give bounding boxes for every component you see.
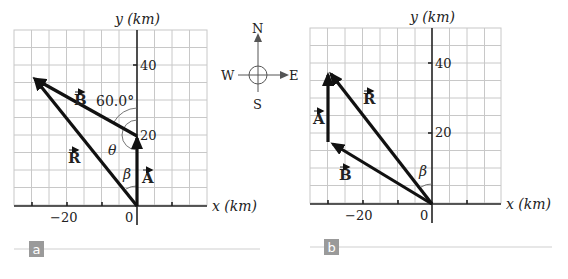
- panel-tag-b-label: b: [328, 240, 336, 255]
- grid: [14, 30, 207, 205]
- x-axis-label: x (km): [506, 196, 551, 212]
- theta-label: θ: [108, 142, 117, 158]
- x-tick-neg20: −20: [50, 210, 77, 225]
- x-tick-neg20: −20: [345, 208, 372, 223]
- panel-a: y (km) x (km) 40 20 −20 0 B R A 60.0° θ …: [14, 11, 260, 257]
- x-axis-label: x (km): [212, 198, 257, 214]
- compass: N S W E: [221, 21, 299, 112]
- y-axis-label: y (km): [114, 11, 160, 27]
- north-label: N: [252, 21, 263, 36]
- vector-r-label: R: [68, 149, 81, 167]
- y-tick-20: 20: [140, 128, 157, 143]
- y-tick-20: 20: [435, 125, 452, 140]
- panel-b: y (km) x (km) 40 20 −20 0 R A B β b: [310, 9, 552, 255]
- east-label: E: [289, 68, 299, 83]
- vector-r: [331, 74, 432, 204]
- y-axis-label: y (km): [409, 9, 455, 25]
- angle-60-arc: [114, 108, 137, 122]
- svg-text:B: B: [339, 166, 352, 184]
- beta-label: β: [418, 163, 427, 179]
- panel-tag-a-label: a: [33, 242, 41, 257]
- y-tick-40: 40: [140, 58, 157, 73]
- west-label: W: [221, 68, 235, 83]
- svg-text:B: B: [74, 91, 87, 109]
- angle-60-label: 60.0°: [96, 93, 134, 109]
- vector-b-label: B: [339, 166, 352, 184]
- vector-a-label: A: [141, 169, 154, 187]
- vector-a-label: A: [312, 110, 325, 128]
- beta-label: β: [122, 166, 131, 182]
- axes: [310, 28, 501, 223]
- x-tick-0: 0: [420, 208, 428, 223]
- y-tick-40: 40: [435, 56, 452, 71]
- svg-text:R: R: [363, 90, 376, 108]
- vector-b-label: B: [74, 91, 87, 109]
- vector-r-label: R: [363, 90, 376, 108]
- south-label: S: [253, 97, 262, 112]
- svg-text:R: R: [68, 149, 81, 167]
- axes: [14, 30, 207, 225]
- svg-text:A: A: [141, 169, 154, 187]
- vector-diagram: y (km) x (km) 40 20 −20 0 B R A 60.0° θ …: [0, 0, 568, 279]
- x-tick-0: 0: [125, 210, 133, 225]
- svg-text:A: A: [312, 110, 325, 128]
